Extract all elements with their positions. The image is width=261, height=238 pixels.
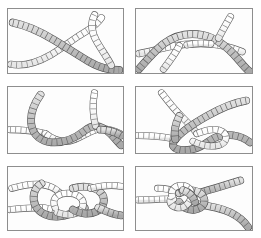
plain-rope-standing <box>138 136 171 139</box>
panel-step-4 <box>135 86 253 154</box>
panel-4-illustration <box>136 87 252 153</box>
plain-rope-standing-left <box>10 130 45 134</box>
knot-core <box>170 185 204 209</box>
panel-5-illustration <box>8 167 123 230</box>
shaded-rope-arch <box>139 34 249 71</box>
plain-rope-right-end <box>93 93 95 126</box>
panel-6-illustration <box>136 167 252 230</box>
panel-2-illustration <box>136 9 252 73</box>
shaded-rope-right-exit <box>100 130 121 136</box>
panel-step-5 <box>7 166 124 231</box>
shaded-rope-right-exit <box>98 208 121 216</box>
plain-rope-over-crossing <box>187 43 211 45</box>
shaded-rope-loop <box>31 95 121 145</box>
panel-grid <box>0 0 261 238</box>
panel-step-2 <box>135 8 253 74</box>
knot-tying-figure: Lay the two rope ends across one another… <box>0 0 261 238</box>
shaded-rope-left-cross <box>175 116 180 139</box>
panel-step-3 <box>7 86 124 154</box>
panel-1-illustration <box>8 9 123 73</box>
panel-step-1 <box>7 8 124 74</box>
panel-3-illustration <box>8 87 123 153</box>
plain-rope-upper-right-tail <box>91 185 121 188</box>
plain-rope-upper-end <box>219 17 231 38</box>
panel-step-6 <box>135 166 253 231</box>
